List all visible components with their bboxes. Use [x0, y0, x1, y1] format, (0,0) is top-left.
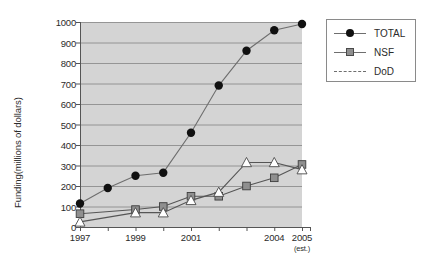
y-tick-label: 500 [36, 119, 76, 130]
y-tick-label: 700 [36, 78, 76, 89]
y-tick-label: 600 [36, 99, 76, 110]
data-point-total-2003 [242, 47, 250, 55]
y-tick-label: 100 [36, 201, 76, 212]
x-tick-label-text: 1997 [70, 232, 90, 243]
data-point-total-1998 [104, 184, 112, 192]
data-point-total-2005 [298, 20, 306, 28]
legend-marker-nsf-icon [333, 46, 367, 58]
y-tick-label: 1000 [36, 17, 76, 28]
data-point-total-1997 [76, 199, 84, 207]
y-tick-label: 400 [36, 140, 76, 151]
x-tick-label-text: 2001 [181, 232, 201, 243]
x-tick-label-1999: 1999 [125, 232, 145, 243]
data-point-nsf-2004 [270, 174, 278, 182]
legend-item-dod: DoD [333, 64, 394, 78]
y-tick-label: 200 [36, 181, 76, 192]
x-tick-label-text: 2004 [264, 232, 284, 243]
y-tick-label: 0 [36, 222, 76, 233]
chart-figure: 01002003004005006007008009001000 Funding… [0, 0, 427, 276]
data-point-nsf-2003 [243, 182, 251, 190]
legend-label-nsf: NSF [374, 47, 394, 58]
legend-label-dod: DoD [374, 66, 394, 77]
x-tick-label-2005: 2005(est.) [292, 232, 312, 253]
x-tick-label-1997: 1997 [70, 232, 90, 243]
y-tick-label: 300 [36, 160, 76, 171]
x-tick-label-2001: 2001 [181, 232, 201, 243]
x-tick-sublabel-est: (est.) [292, 244, 312, 253]
y-tick-label: 900 [36, 37, 76, 48]
legend-marker-dod-icon [333, 65, 367, 77]
data-point-total-2000 [159, 168, 167, 176]
data-point-total-1999 [131, 172, 139, 180]
y-axis-title: Funding(millions of dollars) [12, 78, 26, 208]
legend-marker-total-icon [333, 27, 367, 39]
chart-legend: TOTAL NSF DoD [326, 19, 416, 82]
x-tick-label-2004: 2004 [264, 232, 284, 243]
data-point-total-2002 [215, 81, 223, 89]
data-point-total-2001 [187, 129, 195, 137]
y-tick-label: 800 [36, 58, 76, 69]
legend-label-total: TOTAL [374, 28, 405, 39]
legend-item-nsf: NSF [333, 45, 394, 59]
x-tick-label-text: 2005 [292, 232, 312, 243]
data-point-total-2004 [270, 26, 278, 34]
x-tick-label-text: 1999 [125, 232, 145, 243]
legend-item-total: TOTAL [333, 26, 405, 40]
